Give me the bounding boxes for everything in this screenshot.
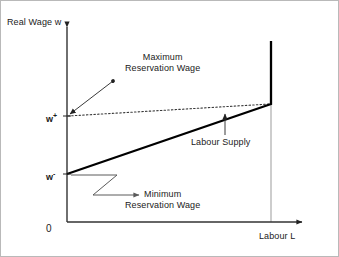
max-reservation-wage-line1: Maximum bbox=[125, 52, 200, 63]
max-reservation-wage-line2: Reservation Wage bbox=[125, 63, 200, 74]
labour-supply-diagram: Real Wage w Labour L 0 w+ w- Maximum Res… bbox=[0, 0, 339, 257]
max-reservation-wage-leader-arrow bbox=[70, 81, 113, 114]
y-axis-title: Real Wage w bbox=[7, 17, 61, 28]
diagram-canvas bbox=[1, 1, 339, 257]
min-reservation-wage-line2: Reservation Wage bbox=[125, 200, 200, 211]
w-plus-superscript: + bbox=[53, 112, 57, 119]
labour-supply-annotation: Labour Supply bbox=[191, 137, 250, 148]
w-plus-label: w+ bbox=[46, 110, 57, 125]
min-reservation-wage-annotation: Minimum Reservation Wage bbox=[125, 189, 200, 211]
min-reservation-wage-line1: Minimum bbox=[125, 189, 200, 200]
w-minus-label: w- bbox=[46, 168, 56, 183]
w-minus-superscript: - bbox=[53, 170, 55, 177]
max-reservation-wage-annotation: Maximum Reservation Wage bbox=[125, 52, 200, 74]
x-axis-title: Labour L bbox=[259, 231, 295, 242]
origin-label: 0 bbox=[46, 223, 52, 234]
